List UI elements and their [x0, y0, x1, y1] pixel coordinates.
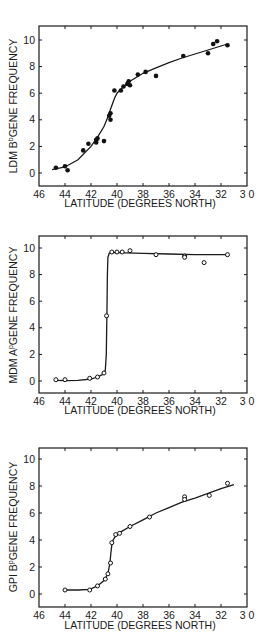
- data-point: [202, 261, 206, 265]
- data-point: [112, 88, 117, 93]
- data-point: [128, 525, 132, 529]
- y-axis-ticks: 0246810: [23, 242, 247, 387]
- data-point: [102, 139, 107, 144]
- data-points: [54, 39, 230, 173]
- data-point: [63, 588, 67, 592]
- data-point: [88, 376, 92, 380]
- y-axis-ticks: 0246810: [23, 34, 247, 179]
- y-tick-label: 0: [29, 588, 35, 600]
- data-point: [143, 70, 148, 75]
- y-tick-label: 2: [29, 140, 35, 152]
- x-tick-label: 46: [33, 395, 45, 407]
- data-point: [54, 378, 58, 382]
- x-axis-label: LATITUDE (DEGREES NORTH): [64, 197, 215, 209]
- y-axis-label: GPI BpGENE FREQUENCY: [7, 462, 19, 593]
- data-point: [211, 42, 216, 47]
- x-tick-label: 3 0: [240, 609, 255, 621]
- chart-gpi: 46444240383634323 0 0246810 LATITUDE (DE…: [7, 448, 254, 631]
- y-tick-label: 0: [29, 375, 35, 387]
- x-tick-label: 46: [33, 188, 45, 200]
- data-point: [128, 83, 133, 88]
- data-point: [109, 561, 113, 565]
- data-point: [63, 378, 67, 382]
- data-point: [128, 249, 132, 253]
- data-point: [207, 493, 211, 497]
- data-point: [88, 588, 92, 592]
- fitted-cline-curve: [52, 44, 228, 170]
- data-point: [102, 371, 106, 375]
- data-point: [120, 250, 124, 254]
- data-point: [96, 375, 100, 379]
- data-point: [65, 168, 70, 173]
- y-tick-label: 8: [29, 480, 35, 492]
- data-point: [108, 111, 113, 116]
- data-point: [215, 39, 220, 44]
- y-tick-label: 6: [29, 87, 35, 99]
- data-point: [226, 481, 230, 485]
- x-axis-label: LATITUDE (DEGREES NORTH): [64, 619, 215, 631]
- plot-frame: [39, 26, 247, 186]
- data-point: [181, 54, 186, 59]
- y-tick-label: 4: [29, 534, 35, 546]
- x-tick-label: 32: [215, 395, 227, 407]
- data-point: [183, 498, 187, 502]
- data-point: [105, 314, 109, 318]
- x-axis-label: LATITUDE (DEGREES NORTH): [64, 404, 215, 416]
- x-axis-ticks: 46444240383634323 0: [33, 26, 254, 200]
- y-tick-label: 6: [29, 507, 35, 519]
- data-point: [96, 584, 100, 588]
- data-points: [54, 249, 230, 382]
- data-point: [63, 164, 68, 169]
- x-tick-label: 3 0: [240, 395, 255, 407]
- data-point: [114, 533, 118, 537]
- x-tick-label: 32: [215, 188, 227, 200]
- y-axis-label: LDM BbGENE FREQUENCY: [7, 39, 19, 174]
- y-tick-label: 2: [29, 348, 35, 360]
- fitted-cline-curve: [65, 485, 234, 590]
- data-point: [154, 74, 159, 79]
- data-point: [110, 250, 114, 254]
- data-point: [110, 541, 114, 545]
- y-axis-label: MDM ApGENE FREQUENCY: [7, 247, 19, 384]
- y-tick-label: 0: [29, 167, 35, 179]
- data-point: [136, 72, 141, 77]
- y-tick-label: 2: [29, 561, 35, 573]
- x-axis-ticks: 46444240383634323 0: [33, 448, 254, 621]
- fitted-cline-curve: [56, 253, 228, 381]
- y-tick-label: 4: [29, 321, 35, 333]
- data-point: [108, 118, 113, 123]
- data-point: [119, 88, 124, 93]
- chart-mdm: 46444240383634323 0 0246810 LATITUDE (DE…: [7, 236, 254, 416]
- data-point: [121, 84, 126, 89]
- data-point: [183, 255, 187, 259]
- data-point: [81, 148, 86, 153]
- gene-frequency-figure: 46444240383634323 0 0246810 LATITUDE (DE…: [0, 0, 262, 633]
- x-tick-label: 32: [215, 609, 227, 621]
- y-axis-ticks: 0246810: [23, 453, 247, 600]
- data-point: [115, 250, 119, 254]
- y-tick-label: 6: [29, 295, 35, 307]
- data-point: [154, 253, 158, 257]
- x-tick-label: 3 0: [240, 188, 255, 200]
- data-point: [54, 165, 59, 170]
- y-tick-label: 10: [23, 453, 35, 465]
- data-point: [118, 531, 122, 535]
- y-tick-label: 8: [29, 60, 35, 72]
- data-point: [225, 43, 230, 48]
- data-point: [126, 79, 131, 84]
- data-point: [206, 51, 211, 56]
- data-points: [63, 481, 230, 592]
- data-point: [106, 572, 110, 576]
- y-tick-label: 10: [23, 34, 35, 46]
- plot-frame: [39, 236, 247, 393]
- plot-frame: [39, 448, 247, 607]
- data-point: [148, 515, 152, 519]
- y-tick-label: 4: [29, 113, 35, 125]
- y-tick-label: 8: [29, 268, 35, 280]
- data-point: [103, 577, 107, 581]
- x-tick-label: 46: [33, 609, 45, 621]
- data-point: [226, 253, 230, 257]
- y-tick-label: 10: [23, 242, 35, 254]
- data-point: [95, 136, 100, 141]
- chart-ldm: 46444240383634323 0 0246810 LATITUDE (DE…: [7, 26, 254, 209]
